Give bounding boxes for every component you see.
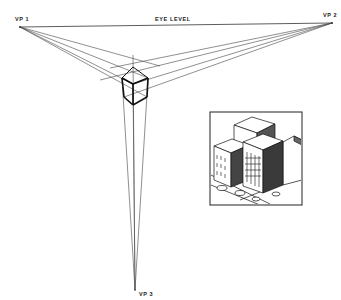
vp1-label: VP 1: [15, 16, 29, 22]
vp2-construction-lines: [100, 23, 332, 97]
three-point-perspective-diagram: EYE LEVEL VP 1 VP 2 VP 3: [0, 0, 341, 300]
vp3-label: VP 3: [139, 291, 153, 297]
city-buildings-illustration: [210, 112, 302, 205]
eye-level-label: EYE LEVEL: [155, 16, 191, 22]
horizon-line: [20, 23, 332, 27]
vp2-label: VP 2: [323, 12, 337, 18]
